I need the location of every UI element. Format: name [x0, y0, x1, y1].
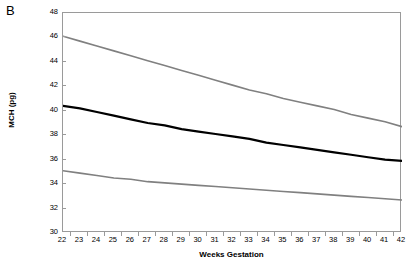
y-tick-mark [62, 159, 66, 160]
y-tick-label: 32 [2, 204, 58, 212]
plot-area [62, 12, 401, 232]
x-tick-mark [393, 232, 394, 236]
x-tick-mark [274, 232, 275, 236]
x-tick-mark [240, 232, 241, 236]
x-tick-mark [87, 232, 88, 236]
y-tick-mark [62, 134, 66, 135]
x-tick-mark [257, 232, 258, 236]
x-tick-mark [70, 232, 71, 236]
x-tick-mark [138, 232, 139, 236]
x-tick-mark [104, 232, 105, 236]
x-tick-mark [223, 232, 224, 236]
x-tick-mark [342, 232, 343, 236]
x-tick-mark [325, 232, 326, 236]
figure-panel-b: B 30323436384042444648 22232425262728293… [0, 0, 415, 266]
x-tick-mark [291, 232, 292, 236]
x-tick-mark [172, 232, 173, 236]
y-tick-mark [62, 61, 66, 62]
x-tick-mark [308, 232, 309, 236]
x-axis-title: Weeks Gestation [62, 251, 401, 259]
y-tick-label: 46 [2, 33, 58, 41]
plot-lines [63, 13, 402, 233]
x-axis-tick-labels: 2223242526272829303132333435363738394041… [62, 236, 401, 250]
x-tick-mark [189, 232, 190, 236]
x-tick-mark [155, 232, 156, 236]
y-tick-label: 30 [2, 228, 58, 236]
y-tick-mark [62, 208, 66, 209]
x-tick-mark [359, 232, 360, 236]
series-line [63, 36, 402, 126]
x-tick-label: 42 [391, 236, 411, 244]
x-tick-mark [121, 232, 122, 236]
y-tick-label: 34 [2, 179, 58, 187]
y-tick-mark [62, 85, 66, 86]
y-tick-label: 48 [2, 8, 58, 16]
x-tick-mark [206, 232, 207, 236]
y-tick-mark [62, 183, 66, 184]
y-axis-title: MCH (pg) [8, 62, 16, 158]
series-line [63, 171, 402, 200]
y-tick-mark [62, 36, 66, 37]
x-tick-mark [376, 232, 377, 236]
y-tick-mark [62, 110, 66, 111]
